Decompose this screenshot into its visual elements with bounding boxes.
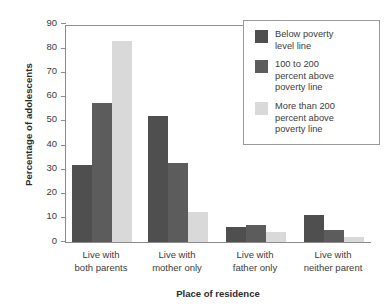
bar [168, 163, 188, 242]
y-tick-label: 80 [30, 41, 57, 52]
legend-label: More than 200percent abovepoverty line [275, 101, 335, 136]
legend-swatch [255, 60, 268, 73]
y-tick-label: 50 [30, 113, 57, 124]
x-tick-label: Live withneither parent [285, 249, 381, 274]
x-tick-label-line: Live with [285, 249, 381, 262]
y-tick-label: 20 [30, 186, 57, 197]
bar [246, 225, 266, 242]
bar-group [72, 25, 132, 242]
y-tick-label: 90 [30, 17, 57, 28]
bar [72, 165, 92, 243]
y-tick-label: 0 [30, 235, 57, 246]
legend-item: More than 200percent abovepoverty line [255, 101, 373, 136]
y-tick-label: 70 [30, 65, 57, 76]
bar [226, 227, 246, 242]
bar-group [148, 25, 208, 242]
chart-legend: Below povertylevel line100 to 200percent… [243, 20, 380, 145]
legend-swatch [255, 102, 268, 115]
y-tick-label: 40 [30, 138, 57, 149]
bar [324, 230, 344, 242]
legend-label-line: level line [275, 41, 333, 53]
legend-item: 100 to 200percent abovepoverty line [255, 59, 373, 94]
legend-label-line: poverty line [275, 82, 334, 94]
bar [92, 103, 112, 242]
legend-swatch [255, 30, 268, 43]
legend-label: 100 to 200percent abovepoverty line [275, 59, 334, 94]
bar [344, 237, 364, 242]
x-tick-label-line: neither parent [285, 262, 381, 275]
y-tick-label: 10 [30, 210, 57, 221]
bar-chart-figure: Percentage of adolescents 01020304050607… [0, 0, 384, 308]
legend-label-line: 100 to 200 [275, 59, 334, 71]
legend-label-line: percent above [275, 71, 334, 83]
y-tick-label: 60 [30, 89, 57, 100]
legend-label: Below povertylevel line [275, 29, 333, 52]
legend-label-line: More than 200 [275, 101, 335, 113]
y-tick-label: 30 [30, 162, 57, 173]
bar [112, 41, 132, 242]
bar [188, 212, 208, 242]
x-axis-title: Place of residence [65, 288, 371, 299]
bar [266, 232, 286, 242]
legend-label-line: Below poverty [275, 29, 333, 41]
bar [148, 116, 168, 242]
bar [304, 215, 324, 242]
legend-label-line: percent above [275, 113, 335, 125]
legend-item: Below povertylevel line [255, 29, 373, 52]
legend-label-line: poverty line [275, 124, 335, 136]
